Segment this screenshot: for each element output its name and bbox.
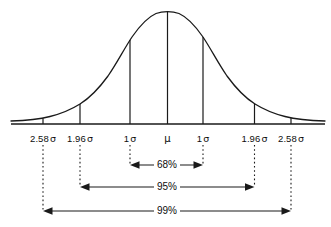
axis-label-neg-1: 1σ: [124, 133, 137, 144]
arrowhead-left-99: [43, 207, 53, 214]
interval-label-95: 95%: [154, 182, 180, 192]
axis-label-neg-1p96: 1.96σ: [67, 133, 93, 144]
axis-label-pos-1: 1σ: [197, 133, 210, 144]
axis-label-neg-2p58-value: 2.58: [30, 133, 49, 144]
axis-label-neg-1p96-value: 1.96: [67, 133, 86, 144]
interval-label-68: 68%: [154, 160, 180, 170]
axis-label-neg-2p58: 2.58σ: [30, 133, 56, 144]
interval-label-99: 99%: [154, 206, 180, 216]
axis-label-pos-2p58: 2.58σ: [278, 133, 304, 144]
arrowhead-left-68: [130, 161, 140, 168]
sigma-icon: σ: [86, 133, 93, 144]
axis-label-pos-2p58-value: 2.58: [278, 133, 297, 144]
sigma-icon: σ: [297, 133, 304, 144]
axis-label-mean: μ: [164, 133, 170, 144]
arrowhead-right-99: [282, 207, 292, 214]
sigma-icon: σ: [49, 133, 56, 144]
normal-distribution-diagram: 2.58σ 1.96σ 1σ μ 1σ 1.96σ 2.58σ 68% 95% …: [0, 0, 331, 227]
sigma-icon: σ: [260, 133, 267, 144]
diagram-canvas: [0, 0, 331, 227]
arrowhead-right-95: [245, 183, 255, 190]
sigma-icon: σ: [129, 133, 136, 144]
sigma-icon: σ: [202, 133, 209, 144]
arrowhead-right-68: [194, 161, 204, 168]
arrowhead-left-95: [80, 183, 90, 190]
axis-label-pos-1p96: 1.96σ: [241, 133, 267, 144]
axis-label-pos-1p96-value: 1.96: [241, 133, 260, 144]
